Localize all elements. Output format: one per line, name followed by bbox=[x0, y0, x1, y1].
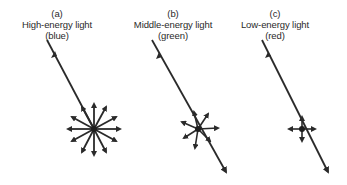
incoming-light-ray-b bbox=[152, 40, 226, 172]
molecule-dot-b bbox=[195, 126, 201, 132]
incoming-light-ray-c bbox=[262, 40, 328, 172]
molecule-dot-c bbox=[299, 126, 305, 132]
panel-b-diagram bbox=[152, 40, 226, 172]
scattering-diagram bbox=[0, 0, 347, 185]
panel-c-diagram bbox=[262, 40, 328, 172]
molecule-dot-a bbox=[91, 126, 97, 132]
panel-a-diagram bbox=[47, 40, 120, 155]
